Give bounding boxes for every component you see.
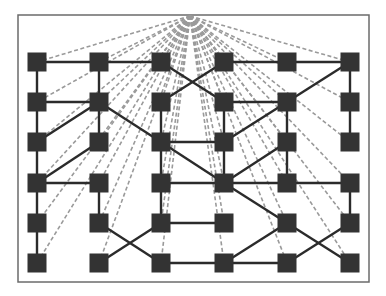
node-r2-c0	[28, 133, 47, 152]
node-r0-c0	[28, 53, 47, 72]
node-r3-c3	[215, 174, 234, 193]
node-r1-c3	[215, 93, 234, 112]
node-r3-c2	[152, 174, 171, 193]
node-r4-c4	[278, 214, 297, 233]
node-r3-c1	[90, 174, 109, 193]
node-r4-c5	[341, 214, 360, 233]
network-diagram	[0, 0, 386, 296]
node-r5-c4	[278, 254, 297, 273]
node-r1-c2	[152, 93, 171, 112]
node-r1-c4	[278, 93, 297, 112]
node-r0-c5	[341, 53, 360, 72]
node-r1-c0	[28, 93, 47, 112]
node-r2-c3	[215, 133, 234, 152]
node-r5-c5	[341, 254, 360, 273]
node-r5-c0	[28, 254, 47, 273]
node-r0-c4	[278, 53, 297, 72]
node-r2-c1	[90, 133, 109, 152]
node-r4-c2	[152, 214, 171, 233]
node-r2-c5	[341, 133, 360, 152]
node-r4-c3	[215, 214, 234, 233]
node-r2-c2	[152, 133, 171, 152]
node-r0-c2	[152, 53, 171, 72]
node-r0-c3	[215, 53, 234, 72]
node-r4-c0	[28, 214, 47, 233]
node-r5-c2	[152, 254, 171, 273]
node-r3-c5	[341, 174, 360, 193]
node-r1-c5	[341, 93, 360, 112]
node-r2-c4	[278, 133, 297, 152]
node-r0-c1	[90, 53, 109, 72]
node-r4-c1	[90, 214, 109, 233]
node-r1-c1	[90, 93, 109, 112]
node-r5-c1	[90, 254, 109, 273]
node-r3-c4	[278, 174, 297, 193]
node-r3-c0	[28, 174, 47, 193]
node-r5-c3	[215, 254, 234, 273]
